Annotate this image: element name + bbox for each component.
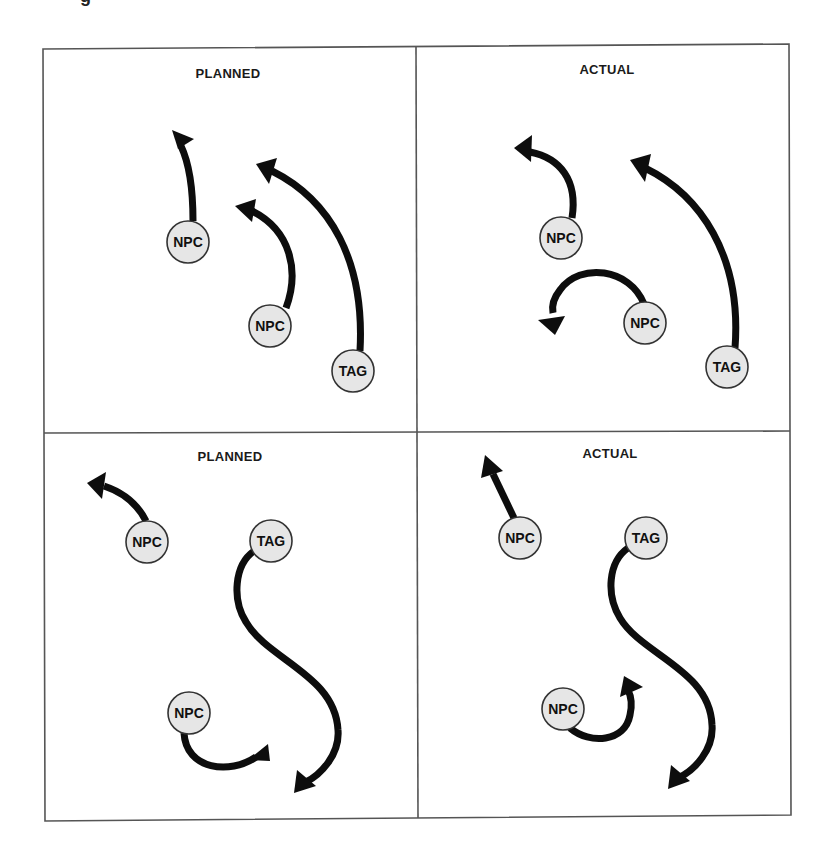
- node-npc: NPC: [624, 302, 666, 344]
- trajectory-arrow-tag: [611, 548, 712, 789]
- arrowhead-icon: [248, 744, 270, 761]
- node-tag: TAG: [332, 350, 374, 392]
- arrowhead-icon: [514, 135, 532, 162]
- svg-text:TAG: TAG: [257, 533, 286, 549]
- title-fragment: g: [80, 0, 91, 6]
- trajectory-arrow-npc1: [481, 455, 514, 518]
- svg-text:TAG: TAG: [632, 530, 661, 546]
- node-npc: NPC: [540, 217, 582, 259]
- svg-text:TAG: TAG: [339, 363, 368, 379]
- arrowhead-icon: [235, 199, 256, 222]
- panel-title: PLANNED: [196, 66, 261, 81]
- node-npc: NPC: [126, 521, 168, 563]
- panel-top-left-planned: PLANNED NPC NPC TAG: [167, 66, 374, 392]
- panel-bottom-left-planned: PLANNED NPC TAG NPC: [87, 449, 338, 793]
- node-npc: NPC: [249, 305, 291, 347]
- panel-title: ACTUAL: [579, 62, 634, 77]
- trajectory-arrow-npc2: [235, 199, 292, 308]
- trajectory-arrow-npc2: [184, 733, 270, 767]
- node-tag: TAG: [250, 520, 292, 562]
- trajectory-arrow-npc1: [172, 130, 194, 221]
- panel-grid: [43, 44, 791, 821]
- node-npc: NPC: [168, 692, 210, 734]
- svg-text:NPC: NPC: [132, 534, 162, 550]
- svg-text:NPC: NPC: [255, 318, 285, 334]
- svg-text:NPC: NPC: [548, 701, 578, 717]
- svg-text:NPC: NPC: [505, 530, 535, 546]
- svg-text:TAG: TAG: [713, 359, 742, 375]
- trajectory-arrow-npc1: [514, 135, 573, 218]
- node-tag: TAG: [625, 517, 667, 559]
- horizontal-divider: [44, 431, 790, 433]
- svg-text:NPC: NPC: [630, 315, 660, 331]
- arrowhead-icon: [630, 154, 651, 182]
- svg-text:NPC: NPC: [546, 230, 576, 246]
- arrowhead-icon: [538, 316, 565, 335]
- node-tag: TAG: [706, 346, 748, 388]
- node-npc: NPC: [499, 517, 541, 559]
- arrowhead-icon: [87, 472, 106, 499]
- node-npc: NPC: [542, 688, 584, 730]
- panel-title: ACTUAL: [582, 446, 637, 461]
- node-npc: NPC: [167, 221, 209, 263]
- panel-top-right-actual: ACTUAL NPC NPC TAG: [514, 62, 748, 388]
- trajectory-arrow-npc1: [87, 472, 146, 521]
- planned-vs-actual-diagram: g PLANNED NPC NPC: [0, 0, 826, 859]
- panel-bottom-right-actual: ACTUAL NPC TAG NPC: [481, 446, 712, 789]
- svg-text:NPC: NPC: [173, 234, 203, 250]
- panel-title: PLANNED: [198, 449, 263, 464]
- svg-text:NPC: NPC: [174, 705, 204, 721]
